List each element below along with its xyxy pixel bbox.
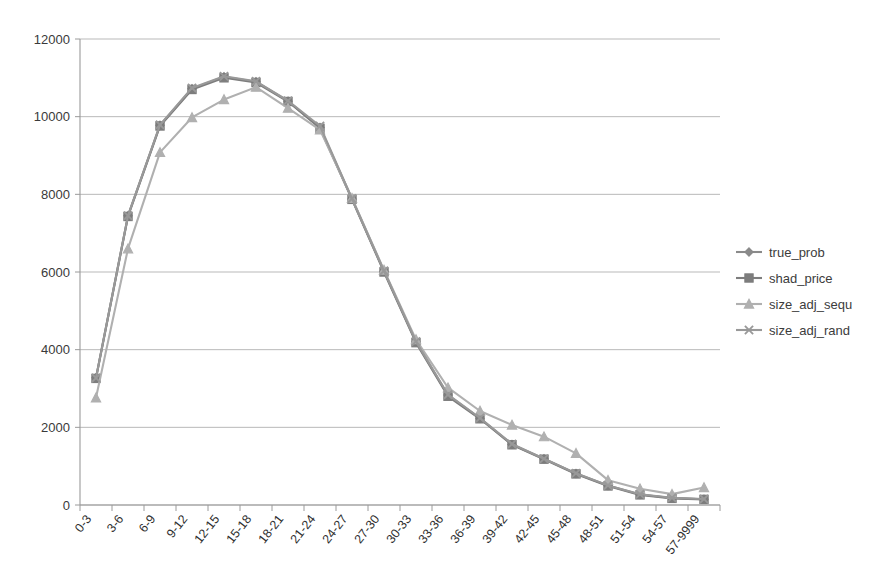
y-tick-label: 10000 <box>34 109 70 124</box>
legend-label-true_prob: true_prob <box>769 245 825 260</box>
legend-symbol-marker <box>745 274 753 282</box>
legend-label-size_adj_rand: size_adj_rand <box>769 323 850 338</box>
y-tick-label: 2000 <box>41 420 70 435</box>
y-tick-label: 12000 <box>34 32 70 47</box>
x-axis <box>80 505 720 511</box>
y-tick-label: 4000 <box>41 342 70 357</box>
line-chart: 020004000600080001000012000 0-33-66-99-1… <box>0 0 881 577</box>
chart-container: 020004000600080001000012000 0-33-66-99-1… <box>0 0 881 577</box>
legend-label-size_adj_sequ: size_adj_sequ <box>769 297 852 312</box>
legend-label-shad_price: shad_price <box>769 271 833 286</box>
y-tick-label: 0 <box>63 498 70 513</box>
y-tick-label: 8000 <box>41 187 70 202</box>
y-tick-label: 6000 <box>41 265 70 280</box>
chart-background <box>0 0 881 577</box>
